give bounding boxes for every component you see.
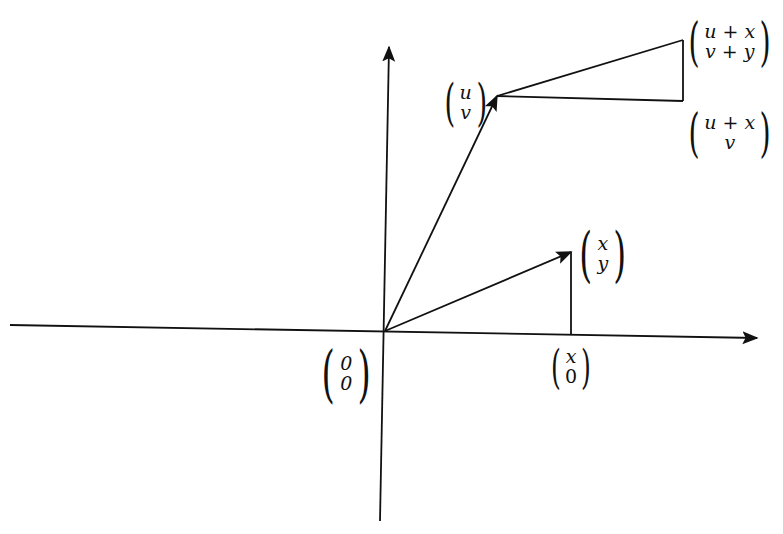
label-uv-bottom: v bbox=[460, 103, 471, 123]
translated-vector-xy bbox=[497, 40, 683, 96]
label-u-plus-x-v-bottom: v bbox=[724, 133, 735, 153]
label-x0: ( x 0 ) bbox=[547, 344, 595, 390]
label-x0-top: x bbox=[566, 347, 577, 367]
label-u-plus-x-v: ( u + x v ) bbox=[684, 107, 776, 159]
label-sum-top: u + x bbox=[704, 22, 755, 42]
translated-horizontal bbox=[497, 96, 683, 101]
label-origin-top: 0 bbox=[340, 354, 352, 374]
label-origin-bottom: 0 bbox=[340, 374, 352, 394]
label-xy-bottom: y bbox=[597, 254, 608, 274]
label-uv-top: u bbox=[460, 83, 472, 103]
label-u-plus-x-v-top: u + x bbox=[704, 113, 755, 133]
y-axis bbox=[380, 47, 389, 521]
label-xy-top: x bbox=[597, 234, 608, 254]
label-sum-bottom: v + y bbox=[705, 42, 754, 62]
vector-diagram bbox=[0, 0, 783, 534]
label-uv: ( u v ) bbox=[440, 78, 491, 128]
label-sum: ( u + x v + y ) bbox=[684, 16, 776, 68]
label-origin: ( 0 0 ) bbox=[316, 343, 377, 405]
vector-xy bbox=[385, 252, 571, 331]
label-x0-bottom: 0 bbox=[565, 367, 577, 387]
label-xy: ( x y ) bbox=[574, 224, 632, 284]
